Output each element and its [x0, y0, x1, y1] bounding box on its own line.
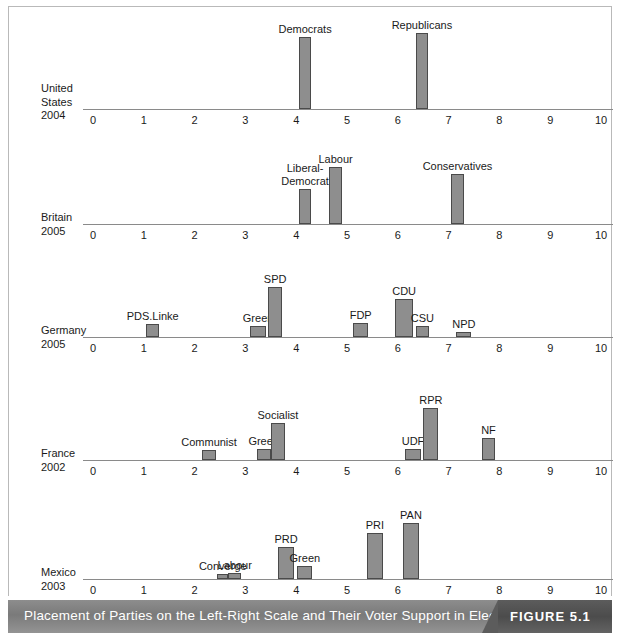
- axis-tick-label: 1: [132, 341, 156, 355]
- axis-tick-label: 7: [437, 228, 461, 242]
- bar-label: Democrats: [278, 23, 331, 36]
- bar-rpr: [423, 408, 438, 460]
- axis-tick-label: 9: [538, 464, 562, 478]
- bar-label: FDP: [350, 309, 372, 322]
- axis-tick-label: 7: [437, 583, 461, 597]
- bar-liberal--democrat: [299, 189, 312, 224]
- axis-tick-label: 8: [487, 464, 511, 478]
- panel-row-label: France 2002: [41, 447, 75, 474]
- axis-tick-label: 2: [183, 583, 207, 597]
- bar-csu: [416, 326, 430, 337]
- axis-tick-label: 5: [335, 113, 359, 127]
- bar-green: [257, 449, 271, 460]
- bar-labour: [228, 573, 241, 579]
- axis-tick-label: 10: [589, 341, 613, 355]
- bar-label: PRD: [274, 533, 297, 546]
- axis-tick-label: 0: [81, 583, 105, 597]
- axis-line: [83, 579, 613, 580]
- chart-plot-frame: 012345678910United States 2004DemocratsR…: [8, 6, 612, 596]
- axis-tick-label: 6: [386, 113, 410, 127]
- bar-green: [250, 326, 265, 337]
- axis-tick-label: 6: [386, 341, 410, 355]
- bar-label: Communist: [181, 436, 237, 449]
- bar-label: UDF: [402, 435, 425, 448]
- bar-label: NPD: [452, 318, 475, 331]
- bar-fdp: [353, 323, 368, 337]
- bar-communist: [202, 450, 216, 460]
- bar-udf: [405, 449, 420, 460]
- chart-panel-germany: 012345678910Germany 2005PDS.LinkeGreenSP…: [9, 250, 613, 371]
- bar-pan: [403, 523, 419, 579]
- bar-label: SPD: [264, 273, 287, 286]
- bar-label: Socialist: [257, 409, 298, 422]
- bar-label: Labour: [318, 153, 352, 166]
- axis-tick-label: 10: [589, 228, 613, 242]
- axis-tick-label: 3: [233, 228, 257, 242]
- axis-tick-label: 2: [183, 464, 207, 478]
- bar-label: Conservatives: [423, 160, 493, 173]
- bar-label: PRI: [366, 519, 384, 532]
- axis-tick-label: 6: [386, 583, 410, 597]
- panel-row-label: Germany 2005: [41, 324, 86, 351]
- bar-nf: [482, 438, 496, 460]
- axis-tick-label: 1: [132, 228, 156, 242]
- panel-row-label: Mexico 2003: [41, 566, 76, 593]
- bar-democrats: [299, 37, 312, 109]
- axis-tick-label: 7: [437, 464, 461, 478]
- axis-tick-label: 8: [487, 113, 511, 127]
- chart-panel-mexico: 012345678910Mexico 2003ConvergeLabourPRD…: [9, 494, 613, 598]
- bar-label: Green: [290, 552, 321, 565]
- axis-tick-label: 2: [183, 113, 207, 127]
- bar-socialist: [271, 423, 285, 460]
- figure-number-label: FIGURE 5.1: [510, 609, 591, 624]
- axis-line: [83, 337, 613, 338]
- axis-tick-label: 6: [386, 464, 410, 478]
- axis-tick-label: 7: [437, 341, 461, 355]
- axis-tick-label: 10: [589, 113, 613, 127]
- axis-tick-label: 8: [487, 583, 511, 597]
- axis-tick-label: 0: [81, 113, 105, 127]
- bar-republicans: [416, 33, 429, 109]
- axis-tick-label: 10: [589, 583, 613, 597]
- axis-tick-label: 0: [81, 464, 105, 478]
- axis-tick-label: 1: [132, 113, 156, 127]
- bar-spd: [268, 287, 282, 337]
- axis-tick-label: 9: [538, 583, 562, 597]
- bar-label: CDU: [392, 285, 416, 298]
- axis-tick-label: 5: [335, 341, 359, 355]
- axis-tick-label: 2: [183, 341, 207, 355]
- axis-tick-label: 3: [233, 583, 257, 597]
- bar-labour: [329, 167, 342, 224]
- bar-label: Labour: [218, 559, 252, 572]
- axis-tick-label: 5: [335, 464, 359, 478]
- axis-line: [83, 460, 613, 461]
- bar-label: Liberal- Democrat: [281, 162, 329, 187]
- axis-tick-label: 9: [538, 113, 562, 127]
- axis-tick-label: 0: [81, 228, 105, 242]
- figure-root: 012345678910United States 2004DemocratsR…: [0, 0, 620, 641]
- bar-conservatives: [451, 174, 464, 224]
- axis-tick-label: 4: [284, 464, 308, 478]
- chart-panel-united-states: 012345678910United States 2004DemocratsR…: [9, 7, 613, 128]
- panel-row-label: United States 2004: [41, 82, 73, 123]
- bar-label: RPR: [419, 394, 442, 407]
- panel-row-label: Britain 2005: [41, 211, 72, 238]
- axis-tick-label: 10: [589, 464, 613, 478]
- axis-tick-label: 4: [284, 113, 308, 127]
- axis-tick-label: 8: [487, 228, 511, 242]
- chart-panel-france: 012345678910France 2002CommunistGreenSoc…: [9, 372, 613, 493]
- bar-pri: [367, 533, 382, 579]
- axis-tick-label: 5: [335, 228, 359, 242]
- axis-tick-label: 9: [538, 341, 562, 355]
- bar-label: PDS.Linke: [127, 310, 179, 323]
- axis-tick-label: 4: [284, 583, 308, 597]
- axis-tick-label: 7: [437, 113, 461, 127]
- bar-label: CSU: [411, 312, 434, 325]
- axis-tick-label: 3: [233, 341, 257, 355]
- bar-pds.linke: [146, 324, 159, 337]
- axis-tick-label: 8: [487, 341, 511, 355]
- axis-tick-label: 3: [233, 464, 257, 478]
- axis-tick-label: 1: [132, 583, 156, 597]
- figure-number-badge: FIGURE 5.1: [498, 600, 612, 633]
- axis-tick-label: 2: [183, 228, 207, 242]
